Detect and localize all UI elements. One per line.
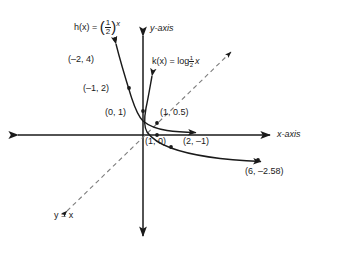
y-axis-label: y-axis xyxy=(150,24,174,34)
point-marker-exp-1 xyxy=(155,121,159,125)
log-argument-x: x xyxy=(195,56,200,66)
point-marker-exp-neg2 xyxy=(113,37,117,41)
point-marker-log-6 xyxy=(256,158,260,162)
point-label-exp-neg2: (–2, 4) xyxy=(68,55,94,65)
point-marker-exp-0 xyxy=(141,109,145,113)
function-label-logarithmic: k(x) = log12x xyxy=(152,52,200,67)
function-label-logarithmic-prefix: k(x) = log xyxy=(152,56,189,66)
exponent-x: x xyxy=(116,19,120,28)
point-label-exp-0: (0, 1) xyxy=(105,108,126,118)
x-axis-label: x-axis xyxy=(277,130,301,140)
point-label-log-1: (1, 0) xyxy=(145,137,166,147)
paren-close: ) xyxy=(111,18,116,35)
point-label-log-2: (2, –1) xyxy=(183,137,209,147)
identity-line-label: y = x xyxy=(54,211,73,221)
function-label-exponential: h(x) = (12)x xyxy=(74,19,120,36)
identity-line-y-equals-x xyxy=(67,52,231,211)
function-label-exponential-prefix: h(x) = xyxy=(74,22,100,32)
point-marker-exp-neg1 xyxy=(127,86,131,90)
point-label-exp-neg1: (–1, 2) xyxy=(83,84,109,94)
point-label-log-6: (6, –2.58) xyxy=(245,167,284,177)
point-label-exp-1: (1, 0.5) xyxy=(160,108,189,118)
point-marker-log-2 xyxy=(169,145,173,149)
log-base-fraction: 12 xyxy=(189,55,193,68)
graph-figure: h(x) = (12)x k(x) = log12x y = x x-axis … xyxy=(0,0,337,261)
